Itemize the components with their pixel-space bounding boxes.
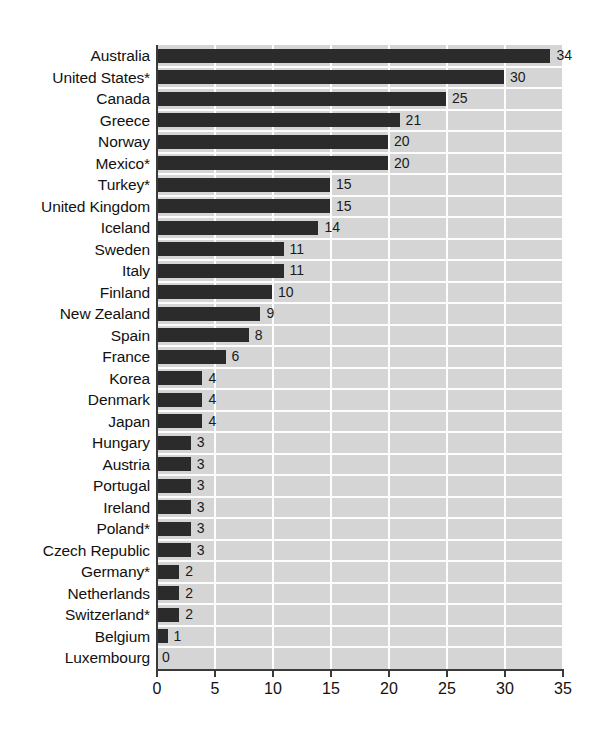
category-label: Hungary <box>92 432 150 454</box>
x-axis-tick-label: 35 <box>554 680 572 698</box>
bar-value-label: 3 <box>197 432 205 454</box>
category-label: United Kingdom <box>41 196 150 218</box>
category-label: Australia <box>91 45 150 67</box>
category-label: New Zealand <box>60 303 150 325</box>
bar-row: Portugal3 <box>0 475 597 497</box>
category-label: Turkey* <box>98 174 150 196</box>
bar-track: 15 <box>156 196 562 218</box>
bar-row: Czech Republic3 <box>0 540 597 562</box>
x-axis-tick <box>446 669 448 677</box>
bar-row: Hungary3 <box>0 432 597 454</box>
bar-value-label: 15 <box>336 196 352 218</box>
x-axis-tick-label: 15 <box>322 680 340 698</box>
bar-track: 1 <box>156 626 562 648</box>
category-label: Luxembourg <box>65 647 150 669</box>
bar <box>156 543 191 557</box>
bar-value-label: 4 <box>208 368 216 390</box>
x-axis-tick <box>214 669 216 677</box>
bar-value-label: 11 <box>290 260 305 282</box>
category-label: United States* <box>52 67 150 89</box>
x-axis-tick <box>504 669 506 677</box>
x-axis-tick-label: 30 <box>496 680 514 698</box>
bar-value-label: 20 <box>394 153 410 175</box>
bar-value-label: 3 <box>197 518 205 540</box>
category-label: Greece <box>100 110 150 132</box>
bar <box>156 457 191 471</box>
bar-value-label: 8 <box>255 325 263 347</box>
bar-value-label: 0 <box>162 647 170 669</box>
bar-track: 3 <box>156 432 562 454</box>
bar-row: Italy11 <box>0 260 597 282</box>
x-axis-tick <box>156 669 158 677</box>
bar-value-label: 14 <box>324 217 340 239</box>
category-label: Portugal <box>93 475 150 497</box>
bar-rows: Australia34United States*30Canada25Greec… <box>0 45 597 669</box>
bar-track: 11 <box>156 260 562 282</box>
bar <box>156 500 191 514</box>
bar-value-label: 25 <box>452 88 468 110</box>
bar-row: Denmark4 <box>0 389 597 411</box>
category-label: Norway <box>98 131 150 153</box>
category-label: Germany* <box>81 561 150 583</box>
bar-track: 25 <box>156 88 562 110</box>
category-label: Sweden <box>95 239 150 261</box>
bar-track: 10 <box>156 282 562 304</box>
bar-row: Korea4 <box>0 368 597 390</box>
category-label: Austria <box>102 454 150 476</box>
bar <box>156 49 550 63</box>
bar-track: 2 <box>156 583 562 605</box>
bar-value-label: 11 <box>290 239 305 261</box>
category-label: Italy <box>122 260 150 282</box>
bar <box>156 414 202 428</box>
bar-track: 15 <box>156 174 562 196</box>
y-axis-line <box>156 45 158 671</box>
bar-value-label: 3 <box>197 540 205 562</box>
category-label: Korea <box>109 368 150 390</box>
bar-track: 21 <box>156 110 562 132</box>
bar-track: 9 <box>156 303 562 325</box>
category-label: Spain <box>111 325 150 347</box>
bar-track: 30 <box>156 67 562 89</box>
category-label: Denmark <box>88 389 150 411</box>
bar-row: Japan4 <box>0 411 597 433</box>
bar <box>156 350 226 364</box>
bar-track: 20 <box>156 131 562 153</box>
bar <box>156 156 388 170</box>
bar-track: 11 <box>156 239 562 261</box>
bar <box>156 522 191 536</box>
x-axis-tick-label: 10 <box>264 680 282 698</box>
bar <box>156 586 179 600</box>
bar <box>156 92 446 106</box>
bar <box>156 70 504 84</box>
bar-track: 3 <box>156 518 562 540</box>
bar-row: Sweden11 <box>0 239 597 261</box>
bar-track: 0 <box>156 647 562 669</box>
bar <box>156 199 330 213</box>
bar-row: Finland10 <box>0 282 597 304</box>
bar-value-label: 30 <box>510 67 526 89</box>
bar-track: 2 <box>156 604 562 626</box>
bar-value-label: 2 <box>185 561 193 583</box>
bar <box>156 113 400 127</box>
bar-row: Iceland14 <box>0 217 597 239</box>
bar-row: Spain8 <box>0 325 597 347</box>
bar <box>156 285 272 299</box>
bar <box>156 178 330 192</box>
bar-row: Belgium1 <box>0 626 597 648</box>
bar-track: 2 <box>156 561 562 583</box>
bar-value-label: 3 <box>197 454 205 476</box>
bar-row: Canada25 <box>0 88 597 110</box>
bar <box>156 371 202 385</box>
x-axis-tick-label: 5 <box>211 680 220 698</box>
bar-value-label: 20 <box>394 131 410 153</box>
x-axis-line <box>156 669 563 671</box>
bar-row: New Zealand9 <box>0 303 597 325</box>
bar-row: Mexico*20 <box>0 153 597 175</box>
category-label: Ireland <box>103 497 150 519</box>
category-label: Mexico* <box>96 153 150 175</box>
x-axis-tick <box>272 669 274 677</box>
bar-value-label: 1 <box>174 626 182 648</box>
bar-row: Ireland3 <box>0 497 597 519</box>
x-axis-tick <box>388 669 390 677</box>
bar-track: 3 <box>156 475 562 497</box>
